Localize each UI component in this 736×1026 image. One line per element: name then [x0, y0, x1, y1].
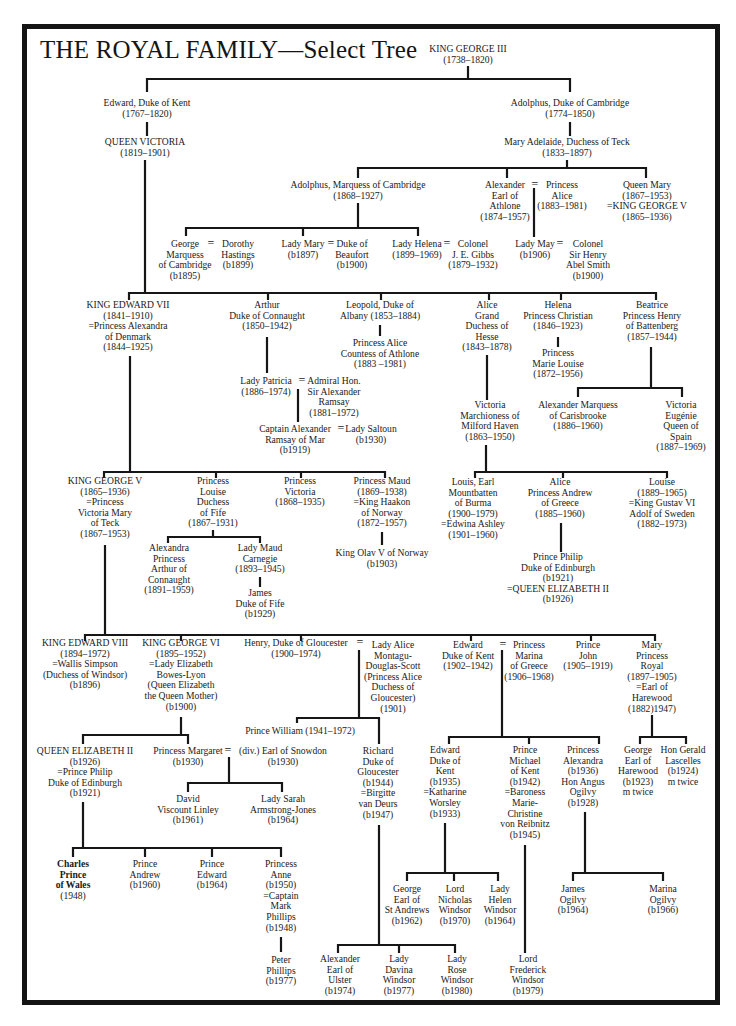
person-marie-louise: Princess Marie Louise (1872–1956) — [532, 348, 583, 380]
marriage-sign: = — [357, 637, 364, 648]
person-princess-marina: Princess Marina of Greece (1906–1968) — [504, 640, 554, 682]
person-beatrice: Beatrice Princess Henry of Battenberg (1… — [623, 300, 681, 342]
person-queen-mary: Queen Mary (1867–1953) =KING GEORGE V (1… — [607, 180, 687, 222]
marriage-sign: = — [208, 238, 215, 249]
person-captain-alexander-ramsay: Captain Alexander Ramsay of Mar (b1919) — [259, 424, 331, 456]
marriage-sign: = — [557, 238, 564, 249]
person-prince-edward: Prince Edward (b1964) — [197, 859, 227, 891]
person-charles-prince-of-wales: Charles Prince of Wales — [56, 859, 91, 891]
person-mary-adelaide: Mary Adelaide, Duchess of Teck (1833–189… — [504, 137, 630, 158]
person-duke-of-beaufort: Duke of Beaufort (b1900) — [335, 239, 369, 271]
person-colonel-gibbs: Colonel J. E. Gibbs (1879–1932) — [448, 239, 498, 271]
person-peter-phillips: Peter Phillips (b1977) — [266, 955, 296, 987]
person-gerald-lascelles: Hon Gerald Lascelles (b1924) m twice — [660, 745, 705, 787]
person-victoria-milford-haven: Victoria Marchioness of Milford Haven (1… — [460, 400, 519, 442]
person-prince-philip: Prince Philip Duke of Edinburgh (b1921) … — [507, 552, 609, 605]
person-david-linley: David Viscount Linley (b1961) — [157, 794, 219, 826]
person-louise-sweden: Louise (1889–1965) =King Gustav VI Adolf… — [629, 477, 696, 530]
person-lady-maud: Lady Maud Carnegie (1893–1945) — [235, 543, 285, 575]
person-george-iii: KING GEORGE III (1738–1820) — [429, 44, 506, 65]
person-edward-vii: KING EDWARD VII (1841–1910) =Princess Al… — [87, 300, 170, 353]
person-edward-kent-1902: Edward Duke of Kent (1902–1942) — [442, 640, 494, 672]
marriage-sign: = — [225, 745, 232, 756]
person-george-v: KING GEORGE V (1865–1936) =Princess Vict… — [68, 476, 142, 540]
person-alexandra-arthur: Alexandra Princess Arthur of Connaught (… — [144, 543, 194, 596]
person-george-harewood: George Earl of Harewood (b1923) m twice — [618, 745, 658, 798]
person-king-olav: King Olav V of Norway (b1903) — [336, 548, 429, 569]
person-frederick-windsor: Lord Frederick Windsor (b1979) — [510, 954, 547, 996]
person-james-ogilvy: James Ogilvy (b1964) — [558, 884, 588, 916]
person-prince-william-gloucester: Prince William (1941–1972) — [245, 726, 355, 737]
person-lady-patricia: Lady Patricia (1886–1974) — [240, 376, 291, 397]
person-nicholas-windsor: Lord Nicholas Windsor (b1970) — [438, 884, 472, 926]
person-richard-gloucester: Richard Duke of Gloucester (b1944) =Birg… — [357, 746, 399, 820]
person-earl-snowdon: (div.) Earl of Snowdon (b1930) — [239, 746, 327, 767]
person-prince-john: Prince John (1905–1919) — [563, 640, 613, 672]
person-mary-princess-royal: Mary Princess Royal (1897–1905) =Earl of… — [627, 640, 677, 714]
person-prince-andrew: Prince Andrew (b1960) — [130, 859, 161, 891]
person-colonel-abel-smith: Colonel Sir Henry Abel Smith (b1900) — [566, 239, 610, 281]
person-princess-anne: Princess Anne (b1950) =Captain Mark Phil… — [263, 859, 298, 933]
person-lady-helena: Lady Helena (1899–1969) — [392, 239, 442, 260]
person-charles-dates: (1948) — [60, 891, 86, 902]
person-alexander-carisbrooke: Alexander Marquess of Carisbrooke (1886–… — [538, 400, 618, 432]
person-lady-may: Lady May (b1906) — [515, 239, 555, 260]
person-alexander-athlone: Alexander Earl of Athlone (1874–1957) — [480, 180, 530, 222]
marriage-sign: = — [338, 423, 345, 434]
person-admiral-ramsay: Admiral Hon. Sir Alexander Ramsay (1881–… — [307, 376, 360, 418]
person-victoria-eugenie: Victoria Eugénie Queen of Spain (1887–19… — [656, 400, 706, 453]
person-lady-mary: Lady Mary (b1897) — [282, 239, 325, 260]
person-george-vi: KING GEORGE VI (1895–1952) =Lady Elizabe… — [142, 638, 220, 712]
person-rose-windsor: Lady Rose Windsor (b1980) — [441, 954, 474, 996]
person-louis-mountbatten: Louis, Earl Mountbatten of Burma (1900–1… — [441, 477, 505, 541]
person-marina-ogilvy: Marina Ogilvy (b1966) — [648, 884, 678, 916]
person-edward-duke-of-kent: Edward, Duke of Kent (1767–1820) — [104, 98, 191, 119]
person-sarah-armstrong-jones: Lady Sarah Armstrong-Jones (b1964) — [250, 794, 316, 826]
person-princess-alexandra: Princess Alexandra (b1936) Hon Angus Ogi… — [561, 745, 604, 809]
person-adolphus-marquess: Adolphus, Marquess of Cambridge (1868–19… — [291, 180, 426, 201]
person-adolphus-duke-of-cambridge: Adolphus, Duke of Cambridge (1774–1850) — [511, 98, 629, 119]
person-edward-viii: KING EDWARD VIII (1894–1972) =Wallis Sim… — [42, 638, 128, 691]
person-henry-gloucester: Henry, Duke of Gloucester (1900–1974) — [244, 638, 347, 659]
person-alice-hesse: Alice Grand Duchess of Hesse (1843–1878) — [462, 300, 512, 353]
person-lady-saltoun: Lady Saltoun (b1930) — [345, 424, 396, 445]
person-helen-windsor: Lady Helen Windsor (b1964) — [484, 884, 517, 926]
person-prince-michael: Prince Michael of Kent (b1942) =Baroness… — [500, 745, 549, 840]
person-princess-alice-countess: Princess Alice Countess of Athlone (1883… — [341, 338, 419, 370]
person-queen-victoria: QUEEN VICTORIA (1819–1901) — [105, 137, 185, 158]
person-princess-maud: Princess Maud (1869–1938) =King Haakon o… — [354, 476, 411, 529]
person-lady-alice-gloucester: Lady Alice Montagu- Douglas-Scott (Princ… — [364, 640, 422, 714]
person-george-marquess-cambridge: George Marquess of Cambridge (b1895) — [158, 239, 211, 281]
person-alexander-ulster: Alexander Earl of Ulster (b1974) — [320, 954, 360, 996]
person-leopold-albany: Leopold, Duke of Albany (1853–1884) — [340, 300, 420, 321]
person-davina-windsor: Lady Davina Windsor (b1977) — [383, 954, 416, 996]
person-george-st-andrews: George Earl of St Andrews (b1962) — [385, 884, 430, 926]
person-james-fife: James Duke of Fife (b1929) — [235, 588, 284, 620]
person-queen-elizabeth-ii: QUEEN ELIZABETH II (b1926) =Prince Phili… — [37, 746, 133, 799]
person-princess-alice-athlone: Princess Alice (1883–1981) — [537, 180, 587, 212]
person-princess-victoria: Princess Victoria (1868–1935) — [275, 476, 325, 508]
person-edward-kent-1935: Edward Duke of Kent (b1935) =Katharine W… — [423, 745, 466, 819]
person-helena: Helena Princess Christian (1846–1923) — [523, 300, 593, 332]
person-alice-andrew: Alice Princess Andrew of Greece (1885–19… — [528, 477, 593, 519]
person-princess-margaret: Princess Margaret (b1930) — [153, 746, 222, 767]
person-dorothy-hastings: Dorothy Hastings (b1899) — [221, 239, 255, 271]
marriage-sign: = — [299, 375, 306, 386]
person-arthur-connaught: Arthur Duke of Connaught (1850–1942) — [229, 300, 305, 332]
person-louise-fife: Princess Louise Duchess of Fife (1867–19… — [188, 476, 238, 529]
marriage-sign: = — [328, 238, 335, 249]
